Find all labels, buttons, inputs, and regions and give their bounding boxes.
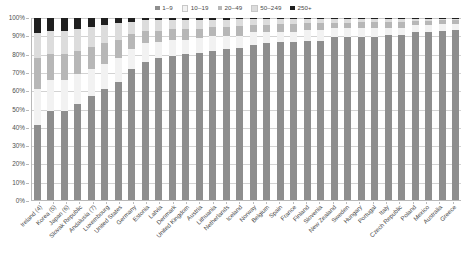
bar-column[interactable]	[304, 18, 311, 200]
y-axis-tick-mark	[26, 36, 29, 37]
bar-column[interactable]	[196, 18, 203, 200]
plot-area	[31, 18, 461, 201]
bar-column[interactable]	[88, 18, 95, 200]
bar-column[interactable]	[74, 18, 81, 200]
bar-segment	[331, 37, 338, 200]
y-axis-tick-label: 10%	[12, 179, 25, 185]
bar-column[interactable]	[317, 18, 324, 200]
legend-item[interactable]: 50–249	[251, 5, 281, 12]
bar-segment	[142, 62, 149, 200]
bar-segment	[398, 28, 405, 35]
bar-column[interactable]	[155, 18, 162, 200]
y-axis-tick-mark	[26, 91, 29, 92]
stacked-bar-chart: 1–910–1920–4950–249250+ 0%10%20%30%40%50…	[0, 0, 467, 258]
bar-segment	[88, 69, 95, 96]
bar-segment	[34, 18, 41, 33]
legend-item[interactable]: 10–19	[182, 5, 209, 12]
bar-segment	[209, 27, 216, 36]
legend-item[interactable]: 1–9	[155, 5, 173, 11]
bar-segment	[250, 25, 257, 32]
bar-segment	[317, 23, 324, 30]
y-axis-tick-label: 60%	[12, 88, 25, 94]
bar-segment	[74, 18, 81, 29]
bar-segment	[128, 34, 135, 49]
bar-column[interactable]	[425, 18, 432, 200]
bar-column[interactable]	[142, 18, 149, 200]
bar-column[interactable]	[182, 18, 189, 200]
y-axis-tick-label: 50%	[12, 106, 25, 112]
bar-segment	[371, 28, 378, 37]
bar-column[interactable]	[101, 18, 108, 200]
bar-segment	[128, 69, 135, 200]
bar-segment	[304, 23, 311, 30]
bar-segment	[250, 32, 257, 45]
y-axis-tick-mark	[26, 183, 29, 184]
y-axis-tick-mark	[26, 164, 29, 165]
bar-segment	[115, 23, 122, 39]
y-axis-tick-mark	[26, 18, 29, 19]
bar-column[interactable]	[398, 18, 405, 200]
bar-segment	[74, 74, 81, 103]
bar-segment	[61, 31, 68, 55]
bar-segment	[182, 20, 189, 29]
bar-segment	[47, 111, 54, 200]
bar-column[interactable]	[128, 18, 135, 200]
bar-column[interactable]	[290, 18, 297, 200]
bar-segment	[74, 29, 81, 51]
legend-item[interactable]: 20–49	[218, 5, 243, 11]
bar-segment	[425, 25, 432, 32]
bar-segment	[61, 80, 68, 111]
bar-column[interactable]	[344, 18, 351, 200]
bar-segment	[155, 20, 162, 31]
bar-segment	[182, 40, 189, 55]
legend-swatch-icon	[182, 5, 189, 12]
bar-column[interactable]	[223, 18, 230, 200]
bar-column[interactable]	[371, 18, 378, 200]
legend-swatch-icon	[155, 6, 160, 11]
bar-column[interactable]	[439, 18, 446, 200]
bar-segment	[344, 28, 351, 37]
bar-column[interactable]	[358, 18, 365, 200]
bar-segment	[115, 82, 122, 200]
y-axis-tick-label: 30%	[12, 143, 25, 149]
bar-column[interactable]	[61, 18, 68, 200]
bar-column[interactable]	[236, 18, 243, 200]
bar-segment	[47, 18, 54, 31]
bar-segment	[142, 43, 149, 61]
bar-column[interactable]	[115, 18, 122, 200]
bar-column[interactable]	[34, 18, 41, 200]
bar-segment	[250, 45, 257, 200]
bar-segment	[425, 32, 432, 200]
bar-column[interactable]	[169, 18, 176, 200]
bar-segment	[34, 58, 41, 89]
y-axis-tick-mark	[26, 201, 29, 202]
bar-segment	[209, 51, 216, 200]
bar-segment	[398, 35, 405, 200]
bar-column[interactable]	[263, 18, 270, 200]
y-axis: 0%10%20%30%40%50%60%70%80%90%100%	[0, 18, 29, 201]
bar-segment	[101, 89, 108, 200]
y-axis-tick-label: 90%	[12, 33, 25, 39]
bar-column[interactable]	[47, 18, 54, 200]
bar-column[interactable]	[452, 18, 459, 200]
bar-segment	[277, 24, 284, 31]
x-axis-category-labels: Ireland (4)Korea (5)Japan (6)Slovak Repu…	[31, 202, 461, 258]
bar-segment	[155, 42, 162, 58]
bar-segment	[452, 30, 459, 201]
bar-segment	[101, 64, 108, 89]
bar-column[interactable]	[209, 18, 216, 200]
bar-segment	[115, 58, 122, 82]
bar-column[interactable]	[250, 18, 257, 200]
bar-column[interactable]	[331, 18, 338, 200]
bar-column[interactable]	[385, 18, 392, 200]
bar-segment	[61, 111, 68, 200]
bar-segment	[155, 31, 162, 42]
bar-segment	[412, 32, 419, 200]
bar-segment	[236, 26, 243, 35]
bar-segment	[331, 28, 338, 37]
bar-segment	[182, 29, 189, 40]
bar-column[interactable]	[277, 18, 284, 200]
bar-column[interactable]	[412, 18, 419, 200]
bar-segment	[439, 24, 446, 31]
legend-item[interactable]: 250+	[290, 5, 311, 11]
